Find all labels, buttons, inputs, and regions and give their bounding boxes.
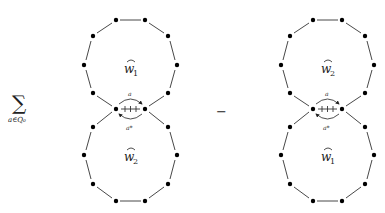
arrow-a-star <box>119 114 142 119</box>
edge <box>294 23 309 33</box>
svg-text:a: a <box>325 90 329 97</box>
vertex <box>166 125 170 129</box>
lower-loop-label: w 2 <box>124 148 138 166</box>
arrow-a <box>119 99 142 104</box>
svg-text:2: 2 <box>133 157 138 166</box>
sum-symbol: ∑ <box>12 91 27 115</box>
edge <box>97 112 112 124</box>
vertex <box>143 199 147 203</box>
vertex <box>311 18 315 22</box>
edge <box>346 187 361 198</box>
edge <box>149 112 164 124</box>
vertex <box>114 18 118 22</box>
edge <box>346 96 361 106</box>
vertex <box>166 34 170 38</box>
vertex <box>363 125 367 129</box>
edge <box>367 41 372 60</box>
vertex <box>340 107 344 111</box>
edge <box>283 160 288 179</box>
edge <box>294 187 309 198</box>
vertex <box>311 199 315 203</box>
edge <box>283 41 288 60</box>
vertex <box>311 107 315 111</box>
edge <box>86 160 91 179</box>
summation: ∑ a∈Q₀ <box>8 91 27 124</box>
vertex <box>114 107 118 111</box>
vertex <box>82 153 86 157</box>
edge <box>170 132 175 150</box>
upper-loop-label: w 1 <box>124 60 138 78</box>
vertex <box>175 63 179 67</box>
svg-text:a*: a* <box>323 124 330 131</box>
svg-text:1: 1 <box>330 157 335 166</box>
edge <box>294 112 309 124</box>
vertex <box>279 153 283 157</box>
diagram-canvas: ∑ a∈Q₀ w 1 <box>0 0 385 213</box>
vertex <box>340 18 344 22</box>
edge <box>283 132 288 150</box>
edge <box>346 23 361 33</box>
upper-loop-label: w 2 <box>321 60 335 78</box>
vertex <box>166 182 170 186</box>
vertex <box>166 91 170 95</box>
lower-loop-label: w 1 <box>321 148 335 166</box>
vertex <box>363 34 367 38</box>
vertex <box>340 199 344 203</box>
vertex <box>372 63 376 67</box>
minus-operator: − <box>216 104 227 119</box>
vertex <box>288 182 292 186</box>
arrow-a <box>316 99 339 104</box>
vertex <box>91 182 95 186</box>
svg-text:1: 1 <box>133 69 138 78</box>
vertex <box>91 34 95 38</box>
edge <box>149 23 164 33</box>
edge <box>97 96 112 106</box>
edge <box>86 41 91 60</box>
edge <box>170 70 175 88</box>
vertex <box>143 107 147 111</box>
vertex <box>288 91 292 95</box>
edge <box>170 41 175 60</box>
left-quiver-diagram: w 1 a a* <box>82 18 179 203</box>
vertex <box>175 153 179 157</box>
svg-text:2: 2 <box>330 69 335 78</box>
vertex <box>288 34 292 38</box>
vertex <box>288 125 292 129</box>
vertex <box>114 199 118 203</box>
edge <box>346 112 361 124</box>
edge <box>294 96 309 106</box>
vertex <box>143 18 147 22</box>
right-quiver-diagram: w 2 a a* <box>279 18 376 203</box>
svg-text:a: a <box>128 90 132 97</box>
vertex <box>279 63 283 67</box>
edge <box>97 23 112 33</box>
svg-text:a*: a* <box>126 124 133 131</box>
vertex <box>363 182 367 186</box>
edge <box>86 70 91 88</box>
sum-subscript: a∈Q₀ <box>8 116 26 124</box>
vertex <box>363 91 367 95</box>
edge <box>149 96 164 106</box>
edge <box>149 187 164 198</box>
edge <box>170 160 175 179</box>
edge <box>97 187 112 198</box>
edge <box>86 132 91 150</box>
edge <box>283 70 288 88</box>
junction: a a* <box>311 90 344 131</box>
junction: a a* <box>114 90 147 131</box>
arrow-a-star <box>316 114 339 119</box>
vertex <box>82 63 86 67</box>
vertex <box>91 91 95 95</box>
edge <box>367 160 372 179</box>
vertex <box>91 125 95 129</box>
vertex <box>372 153 376 157</box>
edge <box>367 70 372 88</box>
edge <box>367 132 372 150</box>
